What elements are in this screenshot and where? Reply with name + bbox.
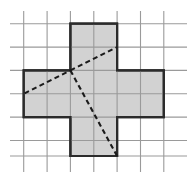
geometry-diagram (0, 0, 190, 179)
figure-container (0, 0, 190, 179)
